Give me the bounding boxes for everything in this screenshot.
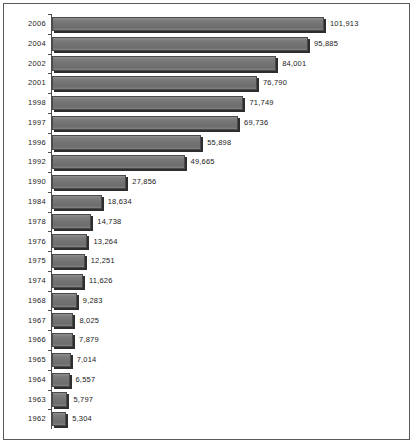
bar-value-label: 5,304 [72, 415, 92, 423]
bar-value-label: 101,913 [330, 20, 359, 28]
axis-tick [48, 251, 51, 252]
category-label: 1965 [12, 356, 51, 364]
bar-value-label: 12,251 [91, 257, 115, 265]
bar-track: 5,304 [51, 409, 401, 429]
bar [52, 76, 257, 90]
axis-tick [48, 34, 51, 35]
axis-tick [48, 192, 51, 193]
bar-track: 11,626 [51, 271, 401, 291]
bar-row: 197512,251 [12, 251, 401, 271]
bar-wrapper: 95,885 [52, 37, 338, 51]
bar [52, 293, 77, 307]
bar-value-label: 95,885 [314, 40, 338, 48]
bar-row: 199249,665 [12, 152, 401, 172]
bar-track: 76,790 [51, 73, 401, 93]
axis-tick [48, 93, 51, 94]
category-label: 1967 [12, 317, 51, 325]
bar [52, 116, 238, 130]
bar-value-label: 84,001 [282, 60, 306, 68]
axis-tick [48, 350, 51, 351]
bar-wrapper: 55,898 [52, 135, 231, 149]
plot-area: 2006101,913200495,885200284,001200176,79… [12, 12, 401, 431]
bar [52, 56, 276, 70]
bar-wrapper: 69,736 [52, 116, 268, 130]
chart-frame: 2006101,913200495,885200284,001200176,79… [3, 3, 410, 440]
bar-wrapper: 7,014 [52, 353, 97, 367]
axis-tick [48, 409, 51, 410]
bar-row: 2006101,913 [12, 14, 401, 34]
axis-tick [48, 370, 51, 371]
bar-row: 199027,856 [12, 172, 401, 192]
bar-value-label: 27,856 [132, 178, 156, 186]
bar-row: 197411,626 [12, 271, 401, 291]
bar-wrapper: 12,251 [52, 254, 115, 268]
bar [52, 392, 67, 406]
bar [52, 155, 185, 169]
bar-wrapper: 14,738 [52, 214, 121, 228]
bar [52, 135, 201, 149]
category-label: 1978 [12, 218, 51, 226]
bar-row: 19689,283 [12, 291, 401, 311]
bar-track: 6,557 [51, 370, 401, 390]
bar-row-list: 2006101,913200495,885200284,001200176,79… [12, 14, 401, 429]
axis-tick [48, 330, 51, 331]
bar-value-label: 69,736 [244, 119, 268, 127]
category-label: 1996 [12, 139, 51, 147]
axis-tick [48, 271, 51, 272]
bar-value-label: 7,014 [77, 356, 97, 364]
bar-track: 13,264 [51, 231, 401, 251]
category-label: 1964 [12, 376, 51, 384]
bar-value-label: 6,557 [76, 376, 96, 384]
bar-chart: 2006101,913200495,885200284,001200176,79… [0, 0, 413, 443]
axis-tick [48, 73, 51, 74]
axis-tick [48, 152, 51, 153]
bar-track: 18,634 [51, 192, 401, 212]
category-label: 1976 [12, 238, 51, 246]
axis-tick [48, 310, 51, 311]
category-label: 1997 [12, 119, 51, 127]
bar-row: 197814,738 [12, 212, 401, 232]
bar-row: 200176,790 [12, 73, 401, 93]
bar-track: 49,665 [51, 152, 401, 172]
bar-wrapper: 5,304 [52, 412, 92, 426]
bar-row: 199655,898 [12, 133, 401, 153]
bar [52, 17, 324, 31]
bar-row: 197613,264 [12, 231, 401, 251]
bar-value-label: 14,738 [97, 218, 121, 226]
bar [52, 333, 73, 347]
axis-tick [48, 231, 51, 232]
bar-track: 55,898 [51, 133, 401, 153]
bar [52, 195, 102, 209]
bar-wrapper: 101,913 [52, 17, 359, 31]
bar-row: 19646,557 [12, 370, 401, 390]
bar-track: 69,736 [51, 113, 401, 133]
bar-wrapper: 71,749 [52, 96, 274, 110]
bar-value-label: 55,898 [207, 139, 231, 147]
category-label: 1990 [12, 178, 51, 186]
bar-value-label: 71,749 [249, 99, 273, 107]
bar-track: 12,251 [51, 251, 401, 271]
axis-tick [48, 54, 51, 55]
bar [52, 254, 85, 268]
axis-tick [48, 212, 51, 213]
bar-row: 198418,634 [12, 192, 401, 212]
axis-tick [48, 133, 51, 134]
bar-wrapper: 84,001 [52, 56, 306, 70]
axis-tick [48, 172, 51, 173]
bar-wrapper: 11,626 [52, 274, 113, 288]
category-label: 1992 [12, 158, 51, 166]
bar-value-label: 7,879 [79, 336, 99, 344]
bar-value-label: 18,634 [108, 198, 132, 206]
category-label: 2006 [12, 20, 51, 28]
bar-value-label: 9,283 [83, 297, 103, 305]
bar-track: 71,749 [51, 93, 401, 113]
bar-row: 19657,014 [12, 350, 401, 370]
bar-wrapper: 9,283 [52, 293, 103, 307]
category-label: 1966 [12, 336, 51, 344]
bar-value-label: 13,264 [93, 238, 117, 246]
bar-track: 8,025 [51, 310, 401, 330]
bar [52, 175, 126, 189]
bar [52, 37, 308, 51]
category-label: 1984 [12, 198, 51, 206]
bar-wrapper: 27,856 [52, 175, 156, 189]
